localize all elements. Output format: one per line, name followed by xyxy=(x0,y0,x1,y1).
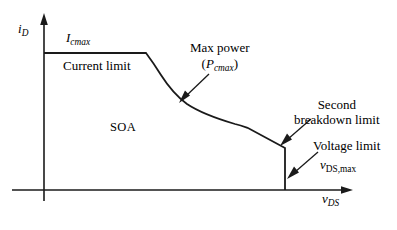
max-power-leader xyxy=(179,74,209,103)
max-power-main: P xyxy=(206,56,214,71)
y-axis-label: iD xyxy=(18,22,28,38)
max-power-line2: (Pcmax) xyxy=(190,57,250,73)
x-axis-arrowhead xyxy=(341,186,353,194)
max-power-leader-line xyxy=(186,74,209,96)
voltage-limit-leader xyxy=(287,152,318,179)
second-breakdown-label: Secondbreakdown limit xyxy=(294,98,380,126)
soa-region-label: SOA xyxy=(110,121,136,134)
x-axis-label: vDS xyxy=(322,192,339,208)
second-breakdown-line1: Second xyxy=(318,97,356,112)
vds-max-label: vDS,max xyxy=(320,158,356,174)
voltage-limit-leader-line xyxy=(295,152,318,172)
second-breakdown-line2: breakdown limit xyxy=(294,113,380,127)
y-axis xyxy=(40,13,48,201)
max-power-label: Max power(Pcmax) xyxy=(190,41,250,73)
max-power-sub: cmax xyxy=(214,62,234,72)
current-max-sub: cmax xyxy=(70,37,90,47)
x-axis-label-sub: DS xyxy=(328,198,339,208)
voltage-limit-arrowhead xyxy=(287,167,299,180)
y-axis-label-sub: D xyxy=(22,28,29,38)
vds-max-sub: DS,max xyxy=(326,164,356,174)
soa-figure: iD vDS Icmax Current limit SOA Max power… xyxy=(0,0,397,230)
soa-boundary-curve xyxy=(44,53,285,190)
second-breakdown-arrowhead xyxy=(280,134,292,147)
x-axis xyxy=(12,186,353,194)
max-power-paren-close: ) xyxy=(234,56,238,71)
voltage-limit-label: Voltage limit xyxy=(313,139,380,153)
current-max-label: Icmax xyxy=(66,31,90,47)
current-limit-label: Current limit xyxy=(63,59,131,73)
y-axis-arrowhead xyxy=(40,13,48,25)
max-power-line1: Max power xyxy=(190,40,250,55)
